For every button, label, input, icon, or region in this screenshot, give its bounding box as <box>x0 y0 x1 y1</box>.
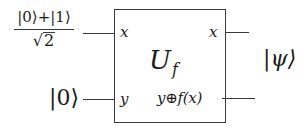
top-input-numerator: |0⟩+|1⟩ <box>14 8 74 26</box>
top-input-wire <box>83 33 114 34</box>
bottom-output-wire <box>222 98 255 99</box>
bottom-input-wire <box>83 99 114 100</box>
gate-input-label-bottom: y <box>120 91 128 107</box>
top-input-denominator: √2 <box>14 32 74 50</box>
gate-input-label-top: x <box>120 24 128 40</box>
top-input-state: |0⟩+|1⟩ √2 <box>14 8 74 50</box>
gate-output-label-bottom: y⊕f(x) <box>157 90 202 106</box>
sqrt-icon: √ <box>33 31 43 50</box>
gate-name-subscript: f <box>172 60 178 79</box>
bottom-input-state: |0⟩ <box>49 86 79 110</box>
quantum-oracle-diagram: |0⟩+|1⟩ √2 |0⟩ x y x y⊕f(x) Uf |ψ⟩ <box>0 0 307 129</box>
top-output-wire <box>226 32 249 33</box>
gate-name: Uf <box>149 46 178 84</box>
gate-name-main: U <box>149 45 171 75</box>
output-state: |ψ⟩ <box>263 47 296 71</box>
gate-output-label-top: x <box>209 24 217 40</box>
fraction-bar <box>14 29 74 30</box>
radicand: 2 <box>43 32 55 49</box>
